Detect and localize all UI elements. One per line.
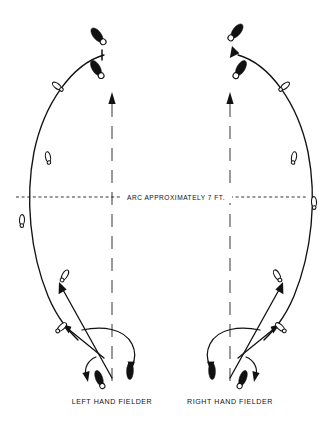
- foot-open-left-3: [19, 215, 24, 228]
- right-panel-caption: RIGHT HAND FIELDER: [187, 398, 273, 406]
- left-panel-caption: LEFT HAND FIELDER: [72, 398, 153, 406]
- figure-background: [0, 0, 325, 433]
- foot-open-right-3: [311, 197, 316, 210]
- figure-root: LEFT HAND FIELDER: [0, 0, 325, 433]
- fielder-footwork-diagram: LEFT HAND FIELDER: [0, 0, 325, 433]
- arc-caption-text: ARC APPROXIMATELY 7 FT.: [127, 194, 225, 201]
